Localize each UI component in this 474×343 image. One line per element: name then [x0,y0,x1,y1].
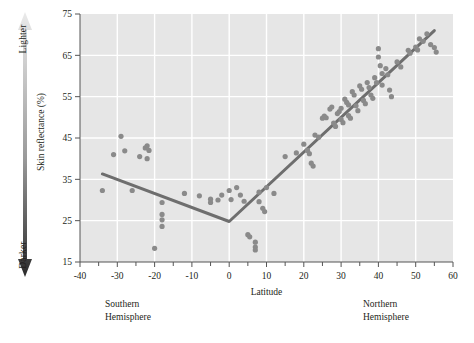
data-point [146,148,151,153]
data-point [352,92,357,97]
data-point [294,150,299,155]
data-point [394,59,399,64]
data-point [365,80,370,85]
data-point [389,94,394,99]
data-point [424,31,429,36]
data-point [253,240,258,245]
data-point [301,142,306,147]
x-tick-label: 0 [227,271,232,281]
data-point [122,148,127,153]
data-point [408,51,413,56]
data-point [228,197,233,202]
scatter-plot: 15253545556575-40-30-20-100102030405060L… [0,0,474,343]
data-point [329,104,334,109]
data-point [383,66,388,71]
data-point [380,82,385,87]
data-point [118,134,123,139]
data-point [353,103,358,108]
data-point [242,199,247,204]
data-point [376,54,381,59]
data-point [283,154,288,159]
x-tick-label: 50 [411,271,421,281]
data-point [208,200,213,205]
data-point [253,247,258,252]
data-point [137,154,142,159]
data-point [372,75,377,80]
data-point [434,49,439,54]
data-point [380,71,385,76]
x-tick-label: 40 [374,271,384,281]
x-tick-label: 10 [262,271,272,281]
data-point [256,199,261,204]
data-point [215,197,220,202]
x-axis-title: Latitude [251,287,283,297]
data-point [387,87,392,92]
data-point [130,188,135,193]
data-point [355,108,360,113]
y-tick-label: 45 [63,133,73,143]
skin-reflectance-latitude-figure: Lighter Darker Skin reflectance (%) 1525… [0,0,474,343]
data-point [398,64,403,69]
data-point [370,96,375,101]
data-point [378,63,383,68]
data-point [359,87,364,92]
x-tick-label: 30 [336,271,346,281]
northern-hemisphere-caption: Northern Hemisphere [363,298,409,323]
data-point [311,164,316,169]
y-tick-label: 35 [63,175,73,185]
data-point [415,47,420,52]
data-point [247,234,252,239]
data-point [324,115,329,120]
data-point [385,72,390,77]
data-point [340,120,345,125]
data-point [421,39,426,44]
data-point [348,116,353,121]
data-point [346,102,351,107]
data-point [307,151,312,156]
data-point [219,192,224,197]
x-tick-label: 60 [448,271,458,281]
data-point [111,152,116,157]
y-tick-label: 75 [63,9,73,19]
data-point [256,190,261,195]
data-point [333,124,338,129]
data-point [100,188,105,193]
x-tick-label: -30 [111,271,124,281]
data-point [159,224,164,229]
data-point [432,45,437,50]
data-point [264,185,269,190]
y-tick-label: 55 [63,92,73,102]
y-tick-label: 65 [63,51,73,61]
data-point [316,135,321,140]
data-point [145,143,150,148]
data-point [363,101,368,106]
data-point [227,188,232,193]
data-point [234,185,239,190]
x-tick-label: -40 [74,271,87,281]
y-tick-label: 25 [63,216,73,226]
southern-hemisphere-caption: Southern Hemisphere [105,298,151,323]
data-point [339,106,344,111]
data-point [159,200,164,205]
data-point [145,156,150,161]
data-point [366,85,371,90]
data-point [159,217,164,222]
x-tick-label: 20 [299,271,309,281]
x-tick-label: -10 [186,271,199,281]
y-tick-label: 15 [63,257,73,267]
data-point [197,193,202,198]
data-point [271,191,276,196]
data-point [182,191,187,196]
data-point [374,80,379,85]
data-point [159,212,164,217]
data-point [152,246,157,251]
data-point [376,46,381,51]
data-point [262,209,267,214]
data-point [238,192,243,197]
x-tick-label: -20 [148,271,161,281]
